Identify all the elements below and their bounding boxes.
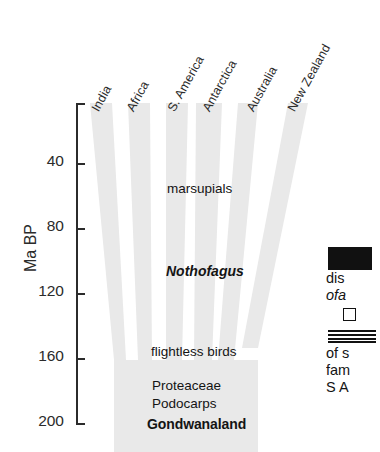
legend-row-dispersal: dis ofa — [326, 247, 380, 304]
event-label-marsupials: marsupials — [167, 181, 232, 196]
legend-text-dis: dis — [326, 270, 380, 287]
y-axis-label-120: 120 — [38, 282, 72, 300]
legend-row-open-square — [326, 308, 380, 321]
y-axis-tick-0 — [76, 103, 85, 105]
y-axis-line — [76, 103, 78, 425]
horizontal-lines-swatch-icon — [328, 330, 376, 343]
open-square-swatch-icon — [343, 308, 356, 321]
y-axis-tick-160 — [76, 358, 85, 360]
event-label-gondwanaland: Gondwanaland — [147, 416, 246, 432]
y-axis-tick-80 — [76, 228, 85, 230]
y-axis-label-160: 160 — [38, 347, 72, 365]
event-label-flightless-birds: flightless birds — [151, 344, 237, 359]
y-axis-label-40: 40 — [47, 152, 72, 170]
solid-bar-swatch-icon — [328, 247, 372, 270]
y-axis-label-80: 80 — [47, 217, 72, 235]
event-label-nothofagus: Nothofagus — [166, 263, 244, 279]
y-axis-label-200: 200 — [38, 412, 72, 430]
legend-text-fam: fam — [326, 362, 380, 379]
event-label-podocarps: Podocarps — [152, 396, 217, 411]
legend-text-s-a: S A — [326, 379, 380, 396]
legend: dis ofa of s fam S A — [326, 247, 380, 397]
legend-text-of-s: of s — [326, 345, 380, 362]
legend-row-lines: of s fam S A — [326, 330, 380, 396]
y-axis-tick-120 — [76, 293, 85, 295]
event-label-proteaceae: Proteaceae — [152, 378, 221, 393]
y-axis-tick-40 — [76, 163, 85, 165]
y-axis-title: Ma BP — [22, 213, 40, 283]
legend-text-ofa: ofa — [326, 287, 380, 304]
y-axis-tick-200 — [76, 423, 85, 425]
